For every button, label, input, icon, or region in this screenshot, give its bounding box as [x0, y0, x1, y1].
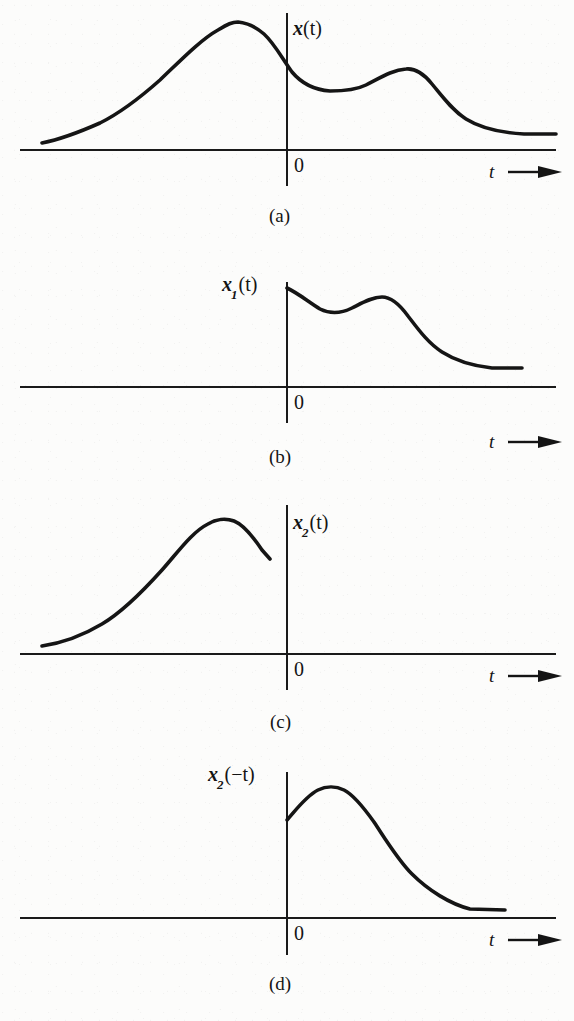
signal-label-b-sub: 1	[231, 287, 238, 302]
panel-a: x(t) 0 t (a)	[0, 0, 574, 255]
right-arrow-icon-c	[538, 670, 562, 682]
origin-label-a: 0	[294, 155, 304, 175]
signal-curve-d	[287, 787, 505, 910]
signal-label-d-arg: (−t)	[225, 763, 255, 785]
signal-curve-b	[287, 288, 522, 368]
signal-label-b-arg: (t)	[239, 273, 258, 295]
right-arrow-icon-d	[538, 934, 562, 946]
panel-d: x2(−t) 0 t (d)	[0, 750, 574, 1021]
signal-label-c: x2(t)	[293, 512, 328, 536]
t-axis-label-a: t	[489, 162, 494, 181]
caption-d: (d)	[269, 974, 291, 993]
signal-label-a-arg: (t)	[303, 17, 322, 39]
caption-a: (a)	[269, 206, 290, 225]
panel-b: x1(t) 0 t (b)	[0, 255, 574, 500]
signal-label-a-base: x	[293, 17, 303, 39]
signal-label-d-sub: 2	[217, 777, 224, 792]
caption-c: (c)	[270, 712, 291, 731]
right-arrow-icon-b	[538, 436, 562, 448]
origin-label-d: 0	[294, 923, 304, 943]
signal-decomposition-figure: x(t) 0 t (a) x1(t) 0 t (b) x2(t)	[0, 0, 574, 1021]
panel-c: x2(t) 0 t (c)	[0, 500, 574, 750]
t-axis-label-d: t	[489, 930, 494, 949]
t-axis-label-c: t	[489, 666, 494, 685]
signal-label-b: x1(t)	[222, 274, 257, 298]
caption-b: (b)	[269, 447, 291, 466]
signal-label-d: x2(−t)	[208, 764, 255, 788]
signal-curve-a	[42, 22, 556, 143]
signal-curve-c	[42, 519, 270, 646]
signal-label-c-sub: 2	[302, 525, 309, 540]
origin-label-c: 0	[294, 659, 304, 679]
right-arrow-icon-a	[538, 166, 562, 178]
signal-label-c-arg: (t)	[310, 511, 329, 533]
origin-label-b: 0	[294, 392, 304, 412]
t-axis-label-b: t	[489, 432, 494, 451]
signal-label-a: x(t)	[293, 18, 322, 38]
